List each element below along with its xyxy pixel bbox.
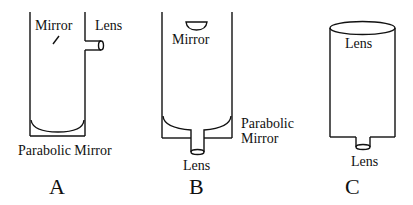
- panel-a-diagonal-mirror: [53, 36, 59, 44]
- panel-b-parabolic-mirror: [163, 116, 231, 152]
- panel-a: Mirror Lens Parabolic Mirror A: [18, 12, 122, 199]
- panel-b-secondary-mirror: [186, 22, 207, 30]
- panel-a-parabolic-mirror-label: Parabolic Mirror: [18, 143, 112, 158]
- panel-c-bottom-lens: [356, 145, 370, 150]
- panel-b: Mirror Parabolic Mirror Lens B: [162, 12, 294, 199]
- panel-a-caption: A: [49, 174, 65, 199]
- panel-b-lens-label: Lens: [183, 158, 210, 173]
- panel-b-lens-eyepiece: [191, 150, 204, 155]
- panel-c-top-lens-label: Lens: [345, 36, 372, 51]
- panel-a-lens-label: Lens: [95, 18, 122, 33]
- panel-b-mirror-label: Mirror: [172, 32, 210, 47]
- panel-c-caption: C: [345, 174, 360, 199]
- panel-c-top-lens: [330, 22, 395, 35]
- panel-a-side-lens-tube: [85, 41, 104, 50]
- panel-a-mirror-label: Mirror: [35, 18, 73, 33]
- panel-b-caption: B: [189, 174, 204, 199]
- panel-c-bottom-lens-label: Lens: [351, 154, 378, 169]
- panel-a-parabolic-mirror: [31, 120, 84, 132]
- telescope-diagram: Mirror Lens Parabolic Mirror A Mirror Pa…: [0, 0, 413, 205]
- panel-b-tube: [162, 12, 232, 138]
- panel-b-parabolic-label-line2: Mirror: [241, 131, 279, 146]
- panel-c: Lens Lens C: [330, 22, 395, 200]
- panel-b-parabolic-label-line1: Parabolic: [241, 116, 294, 131]
